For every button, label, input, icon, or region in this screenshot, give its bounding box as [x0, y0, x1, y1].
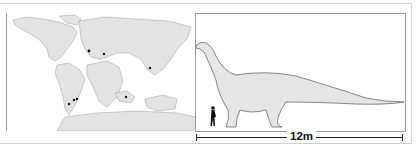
scale-bar: 12m	[195, 130, 406, 144]
human-figure-icon	[211, 106, 217, 126]
fossil-site-marker	[76, 98, 78, 100]
fossil-site-marker	[103, 53, 105, 55]
sauropod-body	[196, 42, 404, 127]
scale-length-label: 12m	[287, 130, 316, 142]
cretaceous-world-map	[7, 13, 196, 131]
fossil-site-marker	[125, 96, 127, 98]
fossil-site-marker	[88, 50, 91, 53]
scale-tick-right	[402, 134, 403, 141]
paleo-map-panel: Cretaceous period	[6, 13, 196, 131]
size-comparison-panel	[195, 13, 406, 132]
fossil-site-marker	[68, 103, 70, 105]
sauropod-silhouette	[196, 14, 405, 131]
fossil-site-marker	[73, 99, 75, 101]
scale-tick-left	[196, 134, 197, 141]
fossil-site-marker	[149, 67, 151, 69]
